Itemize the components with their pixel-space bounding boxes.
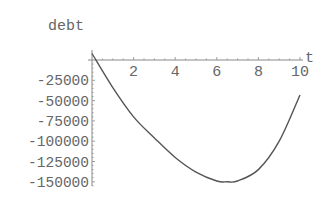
x-axis-label: t: [305, 50, 314, 67]
debt-curve: [92, 54, 300, 183]
y-tick-label: -150000: [28, 175, 89, 191]
y-tick-label: -25000: [37, 73, 89, 89]
x-tick-labels: 246810: [129, 64, 309, 81]
y-tick-label: -100000: [28, 134, 89, 150]
x-tick-label: 8: [254, 64, 263, 81]
x-axis: [88, 57, 303, 60]
y-tick-label: -125000: [28, 155, 89, 171]
y-tick-labels: -25000-50000-75000-100000-125000-150000: [28, 73, 89, 191]
x-tick-label: 4: [171, 64, 180, 81]
x-tick-label: 6: [212, 64, 221, 81]
debt-line-chart: debt 246810 -25000-50000-75000-100000-12…: [0, 0, 336, 206]
y-tick-label: -50000: [37, 94, 89, 110]
y-axis: [92, 50, 95, 186]
y-tick-label: -75000: [37, 114, 89, 130]
y-axis-label: debt: [48, 18, 84, 35]
x-tick-label: 2: [129, 64, 138, 81]
